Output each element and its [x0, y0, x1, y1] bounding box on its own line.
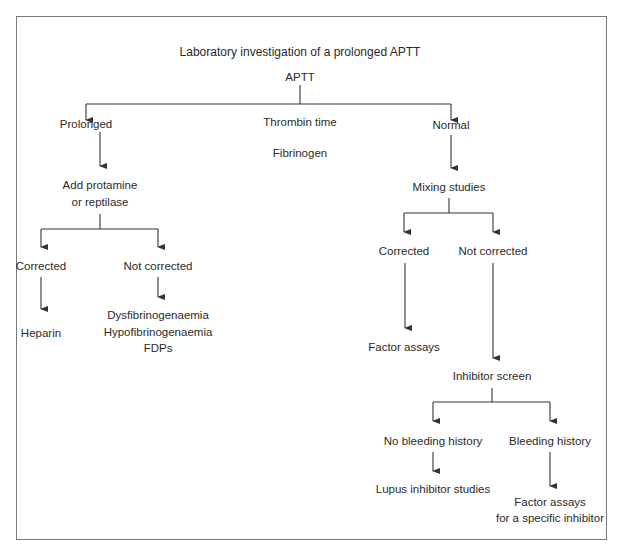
node-add-protamine-line2: or reptilase — [72, 194, 129, 210]
node-factor-assays: Factor assays — [368, 339, 440, 355]
node-aptt: APTT — [285, 69, 314, 85]
node-lupus-inhibitor-studies: Lupus inhibitor studies — [376, 481, 490, 497]
node-fdps: FDPs — [144, 340, 173, 356]
node-factor-assays-specific: Factor assays — [514, 494, 586, 510]
node-right-not-corrected: Not corrected — [458, 243, 527, 259]
node-bleeding-history: Bleeding history — [509, 433, 591, 449]
node-hypofibrinogenaemia: Hypofibrinogenaemia — [104, 324, 213, 340]
node-no-bleeding-history: No bleeding history — [384, 433, 482, 449]
node-right-corrected: Corrected — [379, 243, 430, 259]
diagram-title: Laboratory investigation of a prolonged … — [180, 44, 421, 60]
node-dysfibrinogenaemia: Dysfibrinogenaemia — [107, 307, 209, 323]
node-normal: Normal — [432, 117, 469, 133]
node-mixing-studies: Mixing studies — [413, 179, 486, 195]
node-heparin: Heparin — [21, 325, 61, 341]
node-factor-assays-specific-line2: for a specific inhibitor — [496, 510, 604, 526]
node-prolonged: Prolonged — [60, 116, 112, 132]
node-left-not-corrected: Not corrected — [123, 258, 192, 274]
node-fibrinogen: Fibrinogen — [273, 145, 327, 161]
node-thrombin-time: Thrombin time — [263, 114, 337, 130]
node-left-corrected: Corrected — [16, 258, 67, 274]
node-add-protamine: Add protamine — [63, 177, 138, 193]
node-inhibitor-screen: Inhibitor screen — [453, 368, 532, 384]
